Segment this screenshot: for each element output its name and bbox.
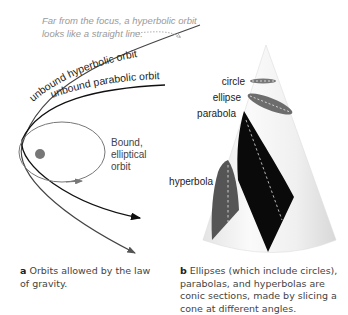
elliptical-orbit-arrow (66, 181, 82, 182)
label-bound-2: elliptical (111, 149, 147, 160)
caption-a: aOrbits allowed by the law of gravity. (20, 265, 160, 290)
label-ellipse: ellipse (213, 92, 242, 103)
label-bound-3: orbit (111, 161, 131, 172)
caption-a-text: Orbits allowed by the law of gravity. (20, 265, 150, 289)
label-hyperbola: hyperbola (169, 176, 213, 187)
annotation-line-2: looks like a straight line. (42, 28, 143, 39)
label-bound-1: Bound, (111, 137, 143, 148)
focus-dot (35, 149, 45, 159)
caption-b-letter: b (180, 265, 187, 276)
elliptical-orbit-path (19, 122, 105, 182)
caption-a-letter: a (20, 265, 26, 276)
label-circle: circle (222, 76, 246, 87)
annotation-line-1: Far from the focus, a hyperbolic orbit (42, 15, 197, 26)
caption-b-text: Ellipses (which include circles), parabo… (180, 265, 337, 314)
caption-b: bEllipses (which include circles), parab… (180, 265, 345, 315)
label-parabola: parabola (197, 108, 236, 119)
